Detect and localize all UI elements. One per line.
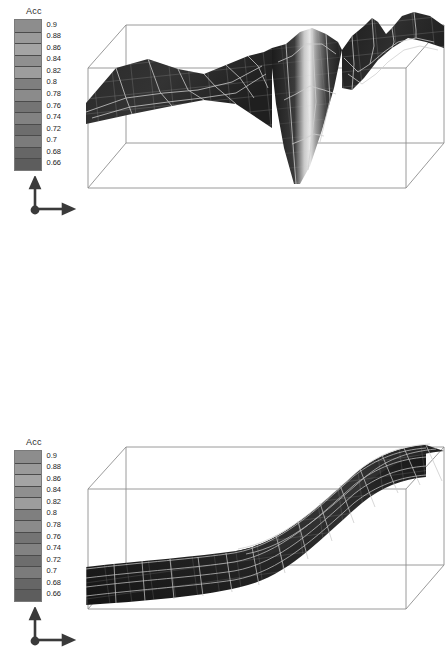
colorbar-swatch — [15, 451, 41, 463]
colorbar-tick-labels: 0.90.880.860.840.820.80.780.760.740.720.… — [47, 19, 86, 171]
triad-x-axis-arrowhead — [63, 205, 73, 214]
surface-panel-top: Acc 0.90.880.860.840.820.80.780.760.740.… — [0, 0, 448, 212]
colorbar-tick-label: 0.88 — [47, 32, 61, 40]
colorbar-swatch — [15, 32, 41, 44]
triad-z-axis-dot — [31, 637, 40, 646]
colorbar-tick-labels: 0.90.880.860.840.820.80.780.760.740.720.… — [47, 450, 86, 602]
axis-triad-top — [22, 176, 78, 218]
colorbar-title: Acc — [26, 6, 86, 17]
surface-mesh-bottom — [86, 444, 444, 605]
colorbar-swatch — [15, 474, 41, 486]
colorbar-tick-label: 0.88 — [47, 463, 61, 471]
colorbar-swatch — [15, 124, 41, 136]
colorbar-tick-label: 0.74 — [47, 544, 61, 552]
axis-triad-bottom — [22, 607, 78, 649]
colorbar-tick-label: 0.82 — [47, 67, 61, 75]
colorbar-title: Acc — [26, 437, 86, 448]
colorbar-tick-label: 0.76 — [47, 533, 61, 541]
colorbar-tick-label: 0.78 — [47, 521, 61, 529]
colorbar-swatch — [15, 112, 41, 124]
colorbar-tick-label: 0.9 — [47, 21, 57, 29]
colorbar-swatch — [15, 147, 41, 159]
colorbar-tick-label: 0.66 — [47, 159, 61, 167]
colorbar-swatch — [15, 89, 41, 101]
colorbar-tick-label: 0.84 — [47, 486, 61, 494]
colorbar-tick-label: 0.72 — [47, 556, 61, 564]
colorbar-legend-top: Acc 0.90.880.860.840.820.80.780.760.740.… — [14, 6, 86, 171]
colorbar-tick-label: 0.86 — [47, 475, 61, 483]
colorbar-tick-label: 0.9 — [47, 452, 57, 460]
colorbar-swatch — [15, 578, 41, 590]
colorbar-tick-label: 0.66 — [47, 590, 61, 598]
colorbar-swatch — [15, 543, 41, 555]
colorbar-tick-label: 0.78 — [47, 90, 61, 98]
colorbar-swatch — [15, 520, 41, 532]
triad-z-axis-dot — [31, 206, 40, 215]
surface-mesh-top — [86, 12, 444, 184]
colorbar-tick-label: 0.82 — [47, 498, 61, 506]
colorbar-swatch — [15, 66, 41, 78]
colorbar-swatch — [15, 101, 41, 113]
colorbar-swatch — [15, 555, 41, 567]
colorbar-swatch — [15, 497, 41, 509]
colorbar-swatch — [15, 158, 41, 170]
colorbar-tick-label: 0.68 — [47, 579, 61, 587]
surface-plot-top — [86, 8, 446, 204]
triad-x-axis-arrowhead — [63, 636, 73, 645]
colorbar-swatch — [15, 55, 41, 67]
colorbar-tick-label: 0.8 — [47, 78, 57, 86]
surface-panel-bottom: Acc 0.90.880.860.840.820.80.780.760.740.… — [0, 215, 448, 454]
colorbar-tick-label: 0.76 — [47, 102, 61, 110]
colorbar-swatch — [15, 43, 41, 55]
colorbar-swatch — [15, 463, 41, 475]
colorbar-gradient — [14, 450, 42, 602]
colorbar-tick-label: 0.7 — [47, 567, 57, 575]
colorbar-swatch — [15, 78, 41, 90]
colorbar-swatch — [15, 486, 41, 498]
colorbar-swatch — [15, 20, 41, 32]
colorbar-tick-label: 0.84 — [47, 55, 61, 63]
colorbar-swatch — [15, 509, 41, 521]
triad-y-axis-arrowhead — [31, 178, 40, 188]
colorbar-tick-label: 0.68 — [47, 148, 61, 156]
colorbar-tick-label: 0.72 — [47, 125, 61, 133]
colorbar-swatch — [15, 589, 41, 601]
colorbar-gradient — [14, 19, 42, 171]
colorbar-swatch — [15, 532, 41, 544]
colorbar-tick-label: 0.86 — [47, 44, 61, 52]
triad-y-axis-arrowhead — [31, 609, 40, 619]
colorbar-swatch — [15, 566, 41, 578]
colorbar-tick-label: 0.8 — [47, 509, 57, 517]
colorbar-tick-label: 0.7 — [47, 136, 57, 144]
colorbar-legend-bottom: Acc 0.90.880.860.840.820.80.780.760.740.… — [14, 437, 86, 602]
colorbar-swatch — [15, 135, 41, 147]
colorbar-tick-label: 0.74 — [47, 113, 61, 121]
surface-plot-bottom — [86, 437, 446, 637]
